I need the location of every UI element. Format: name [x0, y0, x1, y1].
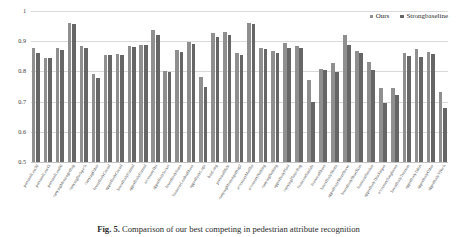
- legend-item-strongbaseline: Strongbaseline: [400, 13, 448, 20]
- bar-strongbaseline: [144, 45, 148, 162]
- bar-strongbaseline: [48, 58, 52, 162]
- bar-group: [175, 11, 185, 162]
- bar-strongbaseline: [84, 48, 88, 162]
- bar-strongbaseline: [132, 47, 136, 162]
- legend-label-strongbaseline: Strongbaseline: [406, 13, 448, 20]
- bar-strongbaseline: [216, 37, 220, 162]
- bar-ours: [247, 23, 251, 162]
- bar-group: [223, 11, 233, 162]
- bar-group: [426, 11, 436, 162]
- bar-group: [31, 11, 41, 162]
- bar-group: [342, 11, 352, 162]
- bar-group: [414, 11, 424, 162]
- bar-strongbaseline: [96, 78, 100, 162]
- bar-strongbaseline: [120, 55, 124, 162]
- x-tick-slot: lowerBodyTrousers: [402, 164, 412, 216]
- bar-group: [270, 11, 280, 162]
- bar-ours: [128, 46, 132, 162]
- bar-group: [115, 11, 125, 162]
- bar-ours: [355, 51, 359, 162]
- bar-ours: [92, 74, 96, 162]
- bar-ours: [259, 48, 263, 162]
- x-tick-slot: carryingBackpack: [79, 164, 89, 216]
- bar-strongbaseline: [72, 24, 76, 162]
- bar-group: [306, 11, 316, 162]
- bar-strongbaseline: [180, 52, 184, 162]
- bar-strongbaseline: [287, 48, 291, 162]
- bar-strongbaseline: [228, 35, 232, 162]
- bar-ours: [175, 50, 179, 162]
- bar-strongbaseline: [252, 24, 256, 162]
- bar-strongbaseline: [443, 108, 447, 162]
- caption-text: Comparison of our best competing in pede…: [122, 224, 360, 234]
- x-axis-labels: personalLess30personalLess45personalLess…: [31, 164, 448, 216]
- x-tick-slot: upperBodyJacket: [163, 164, 173, 216]
- bar-strongbaseline: [335, 72, 339, 162]
- bar-group: [151, 11, 161, 162]
- bar-strongbaseline: [299, 48, 303, 162]
- y-tick-label: 0.5: [18, 159, 26, 165]
- bar-ours: [163, 71, 167, 162]
- bar-group: [127, 11, 137, 162]
- legend-item-ours: Ours: [370, 13, 390, 20]
- bar-group: [234, 11, 244, 162]
- bar-ours: [44, 58, 48, 162]
- bar-strongbaseline: [431, 54, 435, 162]
- x-tick-slot: upperBodyFormal: [139, 164, 149, 216]
- bar-groups: [31, 11, 448, 162]
- figure-container: 10.90.80.70.60.5 personalLess30personalL…: [0, 0, 457, 237]
- bar-ours: [391, 88, 395, 162]
- bar-group: [402, 11, 412, 162]
- y-axis-labels: 10.90.80.70.60.5: [0, 11, 29, 163]
- y-tick-label: 1: [23, 8, 26, 14]
- bar-group: [366, 11, 376, 162]
- x-tick-slot: upperBodyVNeck: [438, 164, 448, 216]
- bar-ours: [211, 33, 215, 162]
- bar-group: [258, 11, 268, 162]
- bar-strongbaseline: [240, 55, 244, 162]
- bar-ours: [319, 69, 323, 162]
- bar-strongbaseline: [383, 103, 387, 162]
- bar-ours: [403, 53, 407, 162]
- legend-swatch-strongbaseline: [400, 15, 404, 19]
- bar-group: [139, 11, 149, 162]
- bar-group: [79, 11, 89, 162]
- bar-group: [390, 11, 400, 162]
- y-tick-label: 0.9: [18, 38, 26, 44]
- bar-ours: [427, 52, 431, 162]
- bar-strongbaseline: [36, 53, 40, 162]
- bar-ours: [367, 62, 371, 162]
- x-tick-slot: personalLess45: [43, 164, 53, 216]
- bar-ours: [80, 46, 84, 162]
- legend-swatch-ours: [370, 15, 374, 19]
- bar-group: [199, 11, 209, 162]
- bar-group: [378, 11, 388, 162]
- bar-strongbaseline: [168, 72, 172, 162]
- bar-strongbaseline: [347, 45, 351, 162]
- bar-strongbaseline: [276, 53, 280, 162]
- bar-ours: [68, 23, 72, 162]
- bar-ours: [271, 51, 275, 162]
- bar-group: [103, 11, 113, 162]
- bar-group: [43, 11, 53, 162]
- bar-ours: [187, 42, 191, 162]
- bar-ours: [283, 43, 287, 162]
- bar-ours: [235, 53, 239, 162]
- bar-strongbaseline: [359, 53, 363, 162]
- bar-ours: [104, 55, 108, 163]
- bar-group: [163, 11, 173, 162]
- bar-ours: [307, 80, 311, 162]
- bar-group: [91, 11, 101, 162]
- bar-ours: [139, 45, 143, 162]
- bar-ours: [223, 32, 227, 162]
- bar-group: [246, 11, 256, 162]
- bar-strongbaseline: [395, 95, 399, 162]
- bar-ours: [331, 63, 335, 162]
- figure-number: Fig. 5.: [97, 224, 120, 234]
- x-tick-slot: footwearSandals: [306, 164, 316, 216]
- bar-ours: [199, 77, 203, 162]
- legend-label-ours: Ours: [376, 13, 390, 20]
- bar-ours: [343, 35, 347, 162]
- bar-ours: [116, 54, 120, 162]
- x-tick-slot: personalLess30: [31, 164, 41, 216]
